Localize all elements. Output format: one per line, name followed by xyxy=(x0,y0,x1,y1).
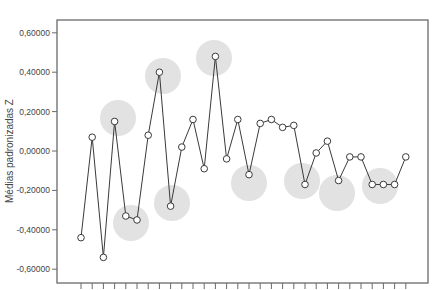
data-point xyxy=(403,154,410,161)
data-point xyxy=(291,122,298,129)
highlight-circle xyxy=(231,165,267,201)
data-point xyxy=(268,116,275,123)
data-point xyxy=(111,118,118,125)
data-point xyxy=(201,165,208,172)
data-point xyxy=(279,124,286,131)
data-point xyxy=(347,154,354,161)
highlight-circle xyxy=(145,58,181,94)
line-chart: 0,600000,400000,200000,00000-0,20000-0,4… xyxy=(0,0,443,290)
data-point xyxy=(78,234,85,241)
x-axis-ticks xyxy=(81,283,406,289)
y-axis-label: Médias padronizadas Z xyxy=(4,99,15,203)
data-point xyxy=(179,144,186,151)
data-point xyxy=(167,203,174,210)
y-tick-label: -0,60000 xyxy=(16,264,50,274)
data-point xyxy=(246,171,253,178)
data-point xyxy=(369,181,376,188)
data-point xyxy=(100,254,107,261)
data-point xyxy=(391,181,398,188)
data-point xyxy=(123,213,130,220)
data-point xyxy=(380,181,387,188)
y-tick-label: -0,40000 xyxy=(16,225,50,235)
y-tick-label: 0,20000 xyxy=(19,107,50,117)
highlight-circle xyxy=(113,205,149,241)
data-point xyxy=(145,132,152,139)
data-point xyxy=(134,217,141,224)
plot-frame xyxy=(57,20,428,283)
data-point xyxy=(235,116,242,123)
data-point xyxy=(212,53,219,60)
highlight-circle xyxy=(100,100,136,136)
data-point xyxy=(190,116,197,123)
data-point xyxy=(313,150,320,157)
data-point xyxy=(257,120,264,127)
data-point xyxy=(335,177,342,184)
y-tick-label: 0,00000 xyxy=(19,146,50,156)
y-axis: 0,600000,400000,200000,00000-0,20000-0,4… xyxy=(16,28,57,274)
data-point xyxy=(324,138,331,145)
data-point xyxy=(89,134,96,141)
y-tick-label: 0,40000 xyxy=(19,67,50,77)
data-point xyxy=(358,154,365,161)
data-point xyxy=(156,69,163,76)
data-point xyxy=(223,156,230,163)
y-tick-label: 0,60000 xyxy=(19,28,50,38)
highlight-circles xyxy=(100,40,398,241)
y-tick-label: -0,20000 xyxy=(16,185,50,195)
data-point xyxy=(302,181,309,188)
